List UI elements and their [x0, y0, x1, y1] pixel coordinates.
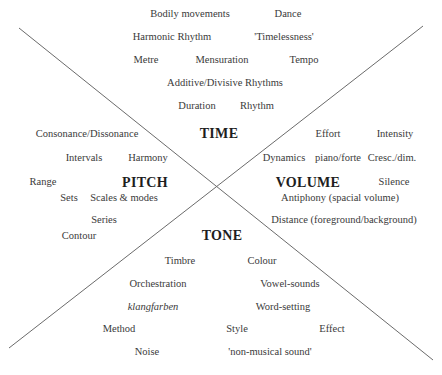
term-piano-forte: piano/forte	[315, 153, 361, 164]
term-method: Method	[103, 324, 136, 335]
term-distance: Distance (foreground/background)	[271, 215, 417, 226]
term-antiphony: Antiphony (spacial volume)	[281, 193, 399, 204]
term-word-setting: Word-setting	[256, 302, 311, 313]
term-intensity: Intensity	[377, 129, 414, 140]
term-dance: Dance	[275, 9, 302, 20]
term-colour: Colour	[247, 256, 276, 267]
term-timbre: Timbre	[165, 256, 196, 267]
term-contour: Contour	[62, 231, 96, 242]
heading-volume: VOLUME	[276, 176, 341, 190]
term-effort: Effort	[316, 129, 341, 140]
term-range: Range	[30, 177, 57, 188]
term-noise: Noise	[135, 347, 160, 358]
term-orchestration: Orchestration	[129, 279, 186, 290]
diagonal-line-ascending	[9, 26, 423, 348]
heading-pitch: PITCH	[122, 176, 168, 190]
term-non-musical-sound: 'non-musical sound'	[228, 347, 311, 358]
music-parameters-diagram: Bodily movements Dance Harmonic Rhythm '…	[0, 0, 442, 375]
term-series: Series	[91, 215, 117, 226]
term-consonance-dissonance: Consonance/Dissonance	[36, 129, 139, 140]
term-scales-modes: Scales & modes	[90, 193, 158, 204]
term-sets: Sets	[60, 193, 78, 204]
term-metre: Metre	[133, 55, 158, 66]
term-cresc-dim: Cresc./dim.	[368, 153, 416, 164]
term-klangfarben: klangfarben	[128, 302, 179, 313]
term-dynamics: Dynamics	[263, 153, 306, 164]
term-effect: Effect	[319, 324, 344, 335]
term-vowel-sounds: Vowel-sounds	[260, 279, 319, 290]
term-mensuration: Mensuration	[195, 55, 248, 66]
term-bodily-movements: Bodily movements	[150, 9, 230, 20]
heading-time: TIME	[200, 127, 239, 141]
term-silence: Silence	[379, 177, 410, 188]
term-duration: Duration	[178, 101, 215, 112]
term-harmonic-rhythm: Harmonic Rhythm	[133, 32, 211, 43]
term-rhythm: Rhythm	[240, 101, 274, 112]
term-tempo: Tempo	[289, 55, 318, 66]
term-timelessness: 'Timelessness'	[254, 32, 313, 43]
term-additive-divisive-rhythms: Additive/Divisive Rhythms	[167, 78, 283, 89]
term-intervals: Intervals	[66, 153, 103, 164]
term-harmony: Harmony	[128, 153, 168, 164]
term-style: Style	[226, 324, 248, 335]
heading-tone: TONE	[202, 229, 243, 243]
